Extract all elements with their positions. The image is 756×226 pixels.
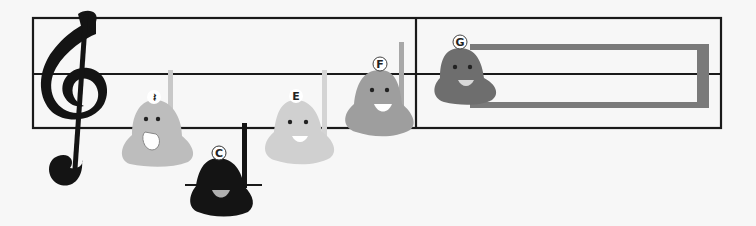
- treble-clef-icon: [41, 11, 107, 186]
- bell-label: C: [215, 147, 223, 160]
- bell-label: F: [376, 58, 384, 71]
- long-note-box: [470, 44, 709, 108]
- bell-label: E: [292, 90, 300, 103]
- bell-c[interactable]: C: [185, 123, 262, 217]
- bell-f[interactable]: F: [345, 42, 413, 136]
- bell-rest[interactable]: 𝄽: [122, 70, 193, 167]
- bell-label: G: [455, 36, 464, 49]
- music-staff-scene: 𝄽 C E F G: [0, 0, 756, 226]
- bell-e[interactable]: E: [265, 70, 334, 164]
